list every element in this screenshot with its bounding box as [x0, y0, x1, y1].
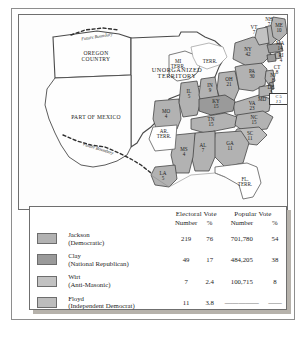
candidate-name-clay: Clay	[68, 252, 172, 260]
map-label-state-LA: LA 5	[157, 171, 169, 181]
table-row: Wirt (Anti-Masonic) 7 2.4 100,715 8	[30, 270, 286, 291]
candidate-name-wirt: Wirt	[68, 273, 172, 281]
sub-header-row: Number % Number %	[30, 219, 286, 228]
electoral-percent-wirt: 2.4	[200, 270, 220, 291]
electoral-number-floyd: 11	[173, 292, 200, 313]
legend-box: Electoral Vote Popular Vote Number % Num…	[29, 206, 287, 310]
header-popular-percent: %	[264, 219, 286, 228]
map-label-state-NC: NC 15	[247, 115, 261, 125]
map-label-state-SC: SC 11	[244, 131, 256, 141]
maryland-split-vote-box: C 5 J 3	[269, 93, 288, 105]
swatch-cell-wirt	[30, 270, 67, 291]
map-label-state-VA: VA 23	[245, 101, 259, 111]
candidate-cell-jackson: Jackson (Democratic)	[67, 228, 172, 249]
map-label-michigan-territory: MI TERR.	[169, 59, 187, 69]
header-electoral-number: Number	[173, 219, 200, 228]
map-label-oregon-country: OREGON COUNTRY	[71, 51, 121, 62]
candidate-party-wirt: (Anti-Masonic)	[68, 281, 172, 289]
candidate-name-jackson: Jackson	[68, 231, 172, 239]
map-label-state-NY: NY 42	[241, 47, 255, 57]
electoral-percent-clay: 17	[200, 249, 220, 270]
map-label-state-NJ: NJ 8	[267, 73, 279, 83]
legend-swatch-floyd	[37, 297, 57, 308]
electoral-percent-floyd: 3.8	[200, 292, 220, 313]
results-table-body: Jackson (Democratic) 219 76 701,780 54 C…	[30, 228, 286, 313]
popular-number-wirt: 100,715	[220, 270, 264, 291]
map-label-state-IN: IN 9	[204, 83, 216, 93]
map-label-state-MA: MA 14	[273, 41, 287, 51]
map-label-state-MO: MO 4	[159, 109, 173, 119]
popular-percent-clay: 38	[264, 249, 286, 270]
electoral-number-wirt: 7	[173, 270, 200, 291]
map-label-florida-territory: FL. TERR.	[235, 177, 255, 187]
legend-swatch-clay	[37, 254, 57, 265]
map-frame: OREGON COUNTRY UNORGANIZED TERRITORY PAR…	[18, 14, 288, 210]
electoral-number-jackson: 219	[173, 228, 200, 249]
spacer-swatch-2	[30, 219, 67, 228]
popular-number-floyd: —————	[220, 292, 264, 313]
table-row: Jackson (Democratic) 219 76 701,780 54	[30, 228, 286, 249]
popular-number-jackson: 701,780	[220, 228, 264, 249]
table-row: Clay (National Republican) 49 17 484,205…	[30, 249, 286, 270]
map-label-state-OH: OH 21	[222, 77, 236, 87]
group-header-row: Electoral Vote Popular Vote	[30, 207, 286, 219]
results-table: Electoral Vote Popular Vote Number % Num…	[30, 207, 286, 313]
candidate-party-floyd: (Independent Democrat)	[68, 302, 172, 310]
swatch-cell-floyd	[30, 292, 67, 313]
map-label-state-GA: GA 11	[223, 141, 237, 151]
legend-swatch-jackson	[37, 233, 57, 244]
candidate-cell-floyd: Floyd (Independent Democrat)	[67, 292, 172, 313]
electoral-percent-jackson: 76	[200, 228, 220, 249]
spacer-swatch	[30, 207, 67, 219]
swatch-cell-jackson	[30, 228, 67, 249]
candidate-cell-clay: Clay (National Republican)	[67, 249, 172, 270]
spacer-candidate	[67, 207, 172, 219]
map-label-michigan-territory-terr: TERR.	[199, 59, 221, 64]
map-label-state-PA: PA 30	[245, 69, 259, 79]
map-label-state-NH: NH 7	[262, 17, 276, 27]
md-split-line2: J 3	[276, 99, 281, 104]
map-label-state-TN: TN 15	[205, 117, 217, 127]
candidate-party-clay: (National Republican)	[68, 260, 172, 268]
election-map-plate: OREGON COUNTRY UNORGANIZED TERRITORY PAR…	[0, 0, 308, 337]
map-label-state-AL: AL 7	[197, 143, 209, 153]
popular-percent-floyd: ——	[264, 292, 286, 313]
swatch-cell-clay	[30, 249, 67, 270]
map-label-state-IL: IL 5	[183, 89, 195, 99]
candidate-party-jackson: (Democratic)	[68, 239, 172, 247]
header-popular-number: Number	[220, 219, 264, 228]
popular-percent-jackson: 54	[264, 228, 286, 249]
candidate-name-floyd: Floyd	[68, 295, 172, 303]
legend-swatch-wirt	[37, 276, 57, 287]
map-label-state-KY: KY 15	[210, 99, 222, 109]
map-label-state-MS: MS 4	[177, 147, 191, 157]
electoral-number-clay: 49	[173, 249, 200, 270]
candidate-cell-wirt: Wirt (Anti-Masonic)	[67, 270, 172, 291]
table-row: Floyd (Independent Democrat) 11 3.8 ————…	[30, 292, 286, 313]
popular-number-clay: 484,205	[220, 249, 264, 270]
map-label-arkansas-territory: AR. TERR.	[153, 129, 175, 139]
header-electoral-percent: %	[200, 219, 220, 228]
header-electoral-vote: Electoral Vote	[173, 207, 220, 219]
map-label-state-RI: RI 4	[275, 53, 287, 63]
map-label-state-VT: VT 7	[247, 25, 261, 35]
results-table-head: Electoral Vote Popular Vote Number % Num…	[30, 207, 286, 228]
popular-percent-wirt: 8	[264, 270, 286, 291]
header-popular-vote: Popular Vote	[220, 207, 286, 219]
map-label-part-of-mexico: PART OF MEXICO	[59, 115, 133, 121]
spacer-candidate-2	[67, 219, 172, 228]
